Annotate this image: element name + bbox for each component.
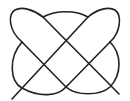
knot-drawing [0, 0, 130, 101]
top-arc [43, 12, 88, 17]
left-loop [10, 8, 43, 42]
diagonal-up-right-1 [12, 17, 88, 99]
knot-diagram [0, 0, 130, 101]
right-loop [88, 8, 119, 42]
diagonal-down-right-2 [43, 17, 119, 94]
diagonal-up-right-2 [66, 42, 110, 87]
